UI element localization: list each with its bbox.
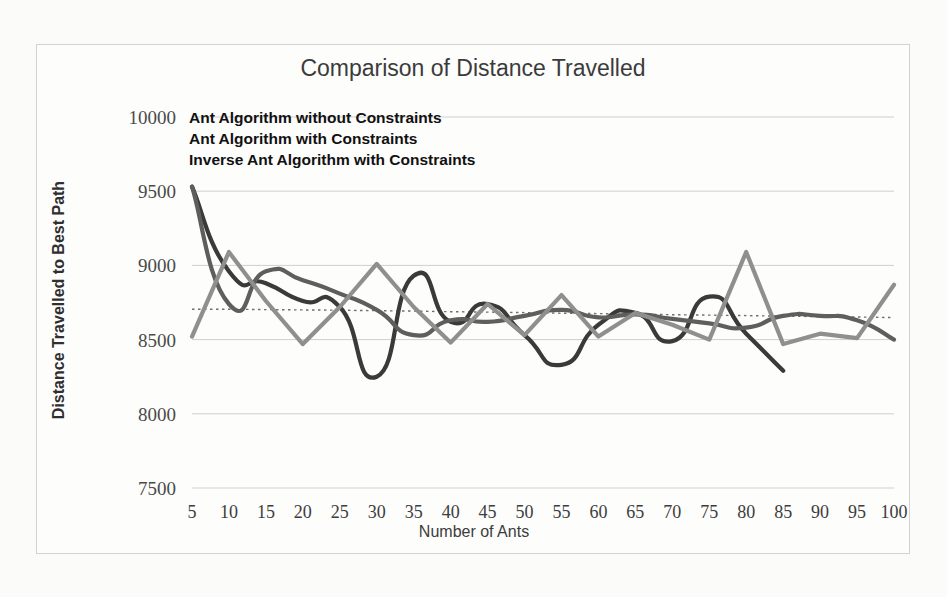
chart-frame: Comparison of Distance Travelled 1000095…: [36, 44, 910, 554]
legend-entry-1: Ant Algorithm without Constraints: [189, 109, 442, 126]
y-axis-tick-label: 9000: [138, 255, 176, 276]
x-axis-tick-label: 5: [188, 502, 197, 522]
legend-entry-2: Ant Algorithm with Constraints: [189, 130, 417, 147]
x-axis-tick-label: 85: [774, 502, 792, 522]
x-axis-tick-label: 80: [737, 502, 755, 522]
chart-legend: Ant Algorithm without ConstraintsAnt Alg…: [189, 109, 476, 168]
y-axis-tick-label: 10000: [129, 107, 177, 128]
x-axis-tick-label: 65: [626, 502, 644, 522]
y-axis-title: Distance Travelled to Best Path: [50, 181, 67, 419]
x-axis-tick-label: 15: [257, 502, 275, 522]
x-axis-tick-label: 55: [552, 502, 570, 522]
x-axis-tick-label: 20: [294, 502, 312, 522]
series-line-1: [192, 187, 783, 378]
y-axis-tick-label: 9500: [138, 181, 176, 202]
x-axis-tick-label: 95: [848, 502, 866, 522]
y-axis-tick-label: 7500: [138, 478, 176, 499]
x-axis-tick-label: 70: [663, 502, 681, 522]
x-axis-title: Number of Ants: [419, 523, 529, 540]
x-axis-tick-label: 30: [368, 502, 386, 522]
line-chart-plot: 1000095009000850080007500 51015202530354…: [37, 45, 911, 555]
x-axis-tick-label: 50: [516, 502, 534, 522]
x-axis-tick-label: 40: [442, 502, 460, 522]
x-axis-tick-label: 45: [479, 502, 497, 522]
x-axis-tick-label: 10: [220, 502, 238, 522]
scan-artifact: [700, 575, 705, 587]
x-axis-tick-label: 90: [811, 502, 829, 522]
series-paths-group: [192, 187, 894, 378]
y-axis-tick-label: 8000: [138, 404, 176, 425]
x-axis-tick-labels: 5101520253035404550556065707580859095100: [188, 502, 908, 522]
x-axis-tick-label: 35: [405, 502, 423, 522]
y-axis-tick-label: 8500: [138, 330, 176, 351]
x-axis-tick-label: 60: [589, 502, 607, 522]
x-axis-tick-label: 100: [881, 502, 908, 522]
x-axis-tick-label: 25: [331, 502, 349, 522]
y-axis-tick-labels: 1000095009000850080007500: [129, 107, 177, 499]
scan-artifact: [120, 14, 125, 26]
gridlines-group: [192, 117, 894, 488]
legend-entry-3: Inverse Ant Algorithm with Constraints: [189, 151, 476, 168]
x-axis-tick-label: 75: [700, 502, 718, 522]
scanned-page: Comparison of Distance Travelled 1000095…: [0, 0, 947, 597]
